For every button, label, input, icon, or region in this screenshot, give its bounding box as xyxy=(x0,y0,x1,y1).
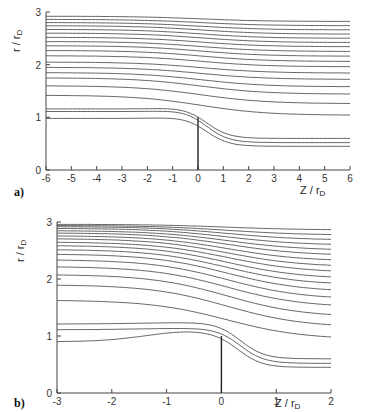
chart-panel-b: -3-2-10120123b)Z / rDr / rD xyxy=(14,217,334,411)
y-tick-label: 1 xyxy=(35,112,41,123)
panel-label: b) xyxy=(14,396,25,410)
streamline xyxy=(46,16,350,21)
streamline xyxy=(57,301,331,337)
x-tick-label: 2 xyxy=(246,173,252,184)
x-tick-label: -3 xyxy=(53,396,62,407)
y-tick-label: 3 xyxy=(35,7,41,18)
x-tick-label: -5 xyxy=(67,173,76,184)
x-tick-label: -6 xyxy=(42,173,51,184)
streamline xyxy=(46,95,350,115)
x-tick-label: -3 xyxy=(118,173,127,184)
x-tick-label: -1 xyxy=(162,396,171,407)
streamline xyxy=(46,73,350,87)
y-axis-label: r / rD xyxy=(10,30,24,53)
y-tick-label: 0 xyxy=(46,388,52,399)
x-tick-label: 4 xyxy=(297,173,303,184)
streamline xyxy=(57,275,331,315)
panel-label: a) xyxy=(14,185,24,199)
streamline xyxy=(57,285,331,325)
streamline xyxy=(46,86,350,104)
x-tick-label: 3 xyxy=(271,173,277,184)
chart-panel-a: -6-5-4-3-2-101234560123a)Z / rDr / rD xyxy=(10,7,353,199)
figure: -6-5-4-3-2-101234560123a)Z / rDr / rD-3-… xyxy=(0,0,371,412)
y-tick-label: 2 xyxy=(35,60,41,71)
x-axis-label: Z / rD xyxy=(300,184,326,198)
x-tick-label: 6 xyxy=(347,173,353,184)
y-tick-label: 1 xyxy=(46,331,52,342)
x-tick-label: -4 xyxy=(92,173,101,184)
x-tick-label: -2 xyxy=(143,173,152,184)
x-tick-label: 0 xyxy=(195,173,201,184)
x-tick-label: 0 xyxy=(219,396,225,407)
x-tick-label: 5 xyxy=(322,173,328,184)
x-axis-label: Z / rD xyxy=(275,397,301,411)
y-axis-label: r / rD xyxy=(14,240,28,263)
y-tick-label: 3 xyxy=(46,217,52,228)
y-tick-label: 2 xyxy=(46,274,52,285)
x-tick-label: 2 xyxy=(328,396,334,407)
x-tick-label: -2 xyxy=(107,396,116,407)
x-tick-label: 1 xyxy=(221,173,227,184)
streamline xyxy=(57,332,331,367)
x-tick-label: -1 xyxy=(168,173,177,184)
y-tick-label: 0 xyxy=(35,165,41,176)
